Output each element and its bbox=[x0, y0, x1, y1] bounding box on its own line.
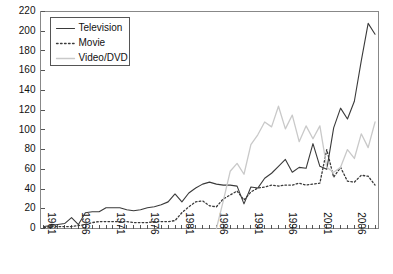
x-tick-label: 2006 bbox=[356, 212, 367, 235]
x-tick-label: 1981 bbox=[184, 212, 195, 235]
x-tick-label: 1961 bbox=[46, 212, 57, 235]
y-tick-label: 40 bbox=[24, 183, 36, 194]
x-tick-label: 2001 bbox=[322, 212, 333, 235]
chart-legend: TelevisionMovieVideo/DVD bbox=[51, 18, 130, 66]
line-chart: 020406080100120140160180200220 196119661… bbox=[0, 0, 393, 274]
y-tick-label: 180 bbox=[19, 45, 36, 56]
chart-container: 020406080100120140160180200220 196119661… bbox=[0, 0, 393, 274]
legend-label-movie: Movie bbox=[79, 37, 106, 48]
series-line-video-dvd bbox=[216, 106, 375, 228]
x-tick-label: 1991 bbox=[253, 212, 264, 235]
x-tick-label: 1971 bbox=[115, 212, 126, 235]
y-tick-label: 200 bbox=[19, 25, 36, 36]
y-tick-label: 0 bbox=[30, 222, 36, 233]
x-axis-ticks: 1961196619711976198119861991199620012006 bbox=[44, 212, 375, 235]
x-tick-label: 1996 bbox=[287, 212, 298, 235]
y-tick-label: 120 bbox=[19, 104, 36, 115]
y-tick-label: 100 bbox=[19, 124, 36, 135]
y-tick-label: 140 bbox=[19, 84, 36, 95]
legend-label-video-dvd: Video/DVD bbox=[79, 52, 128, 63]
y-tick-label: 80 bbox=[24, 143, 36, 154]
y-tick-label: 60 bbox=[24, 163, 36, 174]
y-tick-label: 220 bbox=[19, 5, 36, 16]
x-tick-label: 1976 bbox=[149, 212, 160, 235]
y-tick-label: 20 bbox=[24, 202, 36, 213]
legend-label-television: Television bbox=[79, 22, 123, 33]
y-tick-label: 160 bbox=[19, 64, 36, 75]
